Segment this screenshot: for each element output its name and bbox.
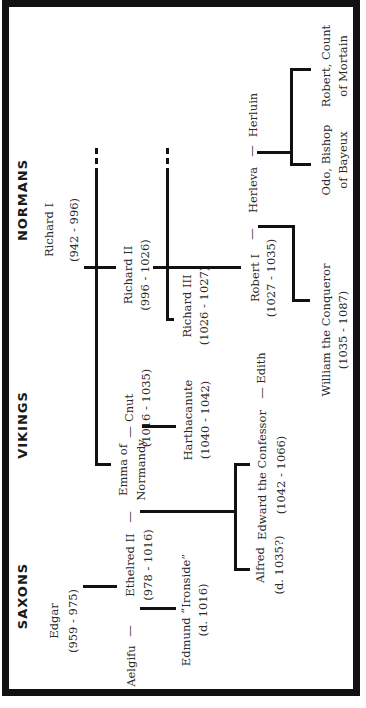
person-edgar-name: Edgar xyxy=(49,603,61,638)
person-aelgifu-name: Aelgifu xyxy=(126,645,138,687)
person-robert1-dates: (1027 - 1035) xyxy=(266,239,278,318)
line-herluin-children xyxy=(257,151,292,154)
dash-richard2-a xyxy=(166,148,169,154)
line-richard1-spine xyxy=(95,168,98,466)
header-normans: NORMANS xyxy=(16,159,29,241)
line-richard2-spine xyxy=(166,168,169,320)
person-richard3-name: Richard III xyxy=(182,274,194,337)
person-cnut-dates: (1016 - 1035) xyxy=(141,369,153,448)
line-richard1-cross xyxy=(84,266,116,269)
marriage-edward-edith: — xyxy=(256,387,268,399)
dash-richard1-b xyxy=(95,158,98,164)
person-richard1-name: Richard I xyxy=(44,203,56,257)
line-to-william xyxy=(292,299,310,302)
line-richard2-robert1 xyxy=(153,266,241,269)
person-william-name: William the Conqueror xyxy=(321,264,333,397)
person-odo-line1: Odo, Bishop xyxy=(321,125,333,196)
line-cnut-harthacanute xyxy=(142,425,176,428)
person-robert1-name: Robert I xyxy=(250,254,262,302)
line-to-robert-count xyxy=(290,68,311,71)
person-edmund-name: Edmund “Ironside” xyxy=(181,554,193,666)
person-herleva-name: Herleva xyxy=(248,167,260,213)
person-edmund-dates: (d. 1016) xyxy=(198,584,210,637)
person-edward-name: Edward the Confessor xyxy=(257,410,269,540)
line-to-richard3 xyxy=(166,318,174,321)
person-william-dates: (1035 - 1087) xyxy=(338,291,350,370)
person-robert-count-line2: of Mortain xyxy=(338,35,350,97)
person-edith-name: Edith xyxy=(256,352,268,383)
line-to-edward xyxy=(234,463,250,466)
line-children-bracket xyxy=(234,463,237,571)
marriage-emma-cnut: — xyxy=(124,426,136,438)
line-to-odo xyxy=(290,163,311,166)
person-herluin-name: Herluin xyxy=(248,93,260,138)
line-robert1-william-vertical xyxy=(292,225,295,301)
person-ethelred2-dates: (978 - 1016) xyxy=(143,529,155,600)
person-richard1-dates: (942 - 996) xyxy=(69,198,81,262)
person-ethelred2-name: Ethelred II xyxy=(125,533,137,596)
person-edward-dates: (1042 - 1066) xyxy=(276,436,288,515)
marriage-ethelred-emma: — xyxy=(124,511,136,523)
person-harthacanute-name: Harthacanute xyxy=(183,380,195,461)
person-harthacanute-dates: (1040 - 1042) xyxy=(200,381,212,460)
header-vikings: VIKINGS xyxy=(16,391,29,459)
line-richard1-emma xyxy=(95,463,111,466)
dash-richard2-b xyxy=(166,158,169,164)
person-richard3-dates: (1026 - 1027) xyxy=(199,267,211,346)
person-richard2-dates: (996 - 1026) xyxy=(140,239,152,310)
person-emma-line2: Normandy xyxy=(136,439,148,501)
marriage-aelgifu-ethelred: — xyxy=(124,625,136,637)
marriage-robert-herleva: — xyxy=(246,228,258,240)
line-edgar-ethelred xyxy=(83,585,117,588)
dash-richard1-a xyxy=(95,148,98,154)
person-alfred-name: Alfred xyxy=(255,547,267,583)
person-odo-line2: of Bayeux xyxy=(338,131,350,188)
person-robert-count-line1: Robert, Count xyxy=(321,25,333,107)
person-richard2-name: Richard II xyxy=(123,246,135,305)
person-edgar-dates: (959 - 975) xyxy=(68,589,80,653)
line-aelgifu-edmund xyxy=(140,607,176,610)
line-to-alfred xyxy=(234,568,250,571)
person-emma-line1: Emma of xyxy=(118,444,130,496)
line-ethelred-children xyxy=(140,510,236,513)
line-robert1-william-top xyxy=(258,225,294,228)
line-herluin-bracket xyxy=(290,68,293,166)
header-saxons: SAXONS xyxy=(16,563,29,629)
person-cnut-name: Cnut xyxy=(124,394,136,422)
person-alfred-dates: (d. 1035?) xyxy=(274,535,286,594)
